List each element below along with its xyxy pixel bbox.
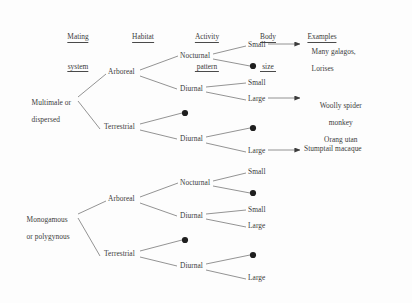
dot-suppressed-activity-top [182,110,188,116]
example-galagos-lorises: Many galagos, Lorises [304,39,356,82]
node-activity-diurnal-terrestrial-top: Diurnal [180,135,203,144]
node-activity-diurnal-arboreal-bottom: Diurnal [180,212,203,221]
dot-body-size-noct-arb-top [250,63,256,69]
node-activity-diurnal-arboreal-top: Diurnal [180,85,203,94]
example-line-1: Woolly spider [320,101,362,110]
header-line-2: size [260,62,276,73]
node-label-line-2: or polygynous [27,232,70,241]
figure-canvas: Mating system Habitat Activity pattern B… [0,0,412,303]
node-habitat-arboreal-top: Arboreal [108,68,135,77]
dot-body-size-diu-terr-top [250,125,256,131]
node-mating-system-multimale: Multimale or dispersed [24,90,71,133]
node-body-size-small-noct-arb-top: Small [248,41,266,50]
node-label-line-2: dispersed [32,115,60,124]
node-activity-nocturnal-arboreal-top: Nocturnal [180,52,210,61]
node-body-size-small-diu-arb-top: Small [248,79,266,88]
node-habitat-terrestrial-top: Terrestrial [104,123,135,132]
node-habitat-terrestrial-bottom: Terrestrial [104,250,135,259]
example-line-2: monkey [329,118,353,127]
example-line-3: Orang utan [324,135,358,144]
node-body-size-small-diu-arb-bottom: Small [248,206,266,215]
example-line-2: Lorises [312,64,334,73]
dot-suppressed-activity-bottom [182,237,188,243]
header-line-1: Mating [67,32,88,43]
header-line-2: system [67,62,88,73]
node-habitat-arboreal-bottom: Arboreal [108,195,135,204]
example-stumptail-macaque: Stumptail macaque [304,145,362,154]
example-line-1: Many galagos, [312,47,356,56]
column-header-habitat: Habitat [132,14,154,61]
dot-body-size-noct-arb-bottom [250,190,256,196]
node-body-size-large-diu-arb-bottom: Large [248,222,265,231]
node-body-size-small-noct-arb-bottom: Small [248,168,266,177]
node-body-size-large-diu-arb-top: Large [248,95,265,104]
node-body-size-large-diu-terr-top: Large [248,147,265,156]
node-body-size-large-diu-terr-bottom: Large [248,274,265,283]
header-line-1: Activity [195,32,219,43]
node-label-line-1: Monogamous [27,215,68,224]
dot-body-size-diu-terr-bottom [250,252,256,258]
node-mating-system-monogamous: Monogamous or polygynous [19,207,70,250]
column-header-mating-system: Mating system [67,14,88,90]
node-activity-diurnal-terrestrial-bottom: Diurnal [180,262,203,271]
node-label-line-1: Multimale or [32,98,71,107]
node-activity-nocturnal-arboreal-bottom: Nocturnal [180,179,210,188]
header-line-1: Habitat [132,32,154,43]
header-line-2: pattern [195,62,219,73]
